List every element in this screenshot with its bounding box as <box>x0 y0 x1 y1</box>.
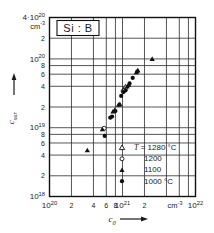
chart-title: Si : B <box>63 22 92 34</box>
x-tick-label: 6 <box>104 202 108 209</box>
y-tick-label: 8 <box>41 131 45 138</box>
data-point <box>103 134 107 138</box>
data-point <box>135 69 139 73</box>
legend-marker <box>119 167 124 172</box>
legend-label: 1100 <box>144 165 162 174</box>
y-axis-unit: cm-3 <box>30 20 45 30</box>
legend-label: T = 1280 °C <box>134 143 177 152</box>
legend-marker <box>120 179 124 183</box>
y-tick-label: 6 <box>41 71 45 78</box>
y-tick-label: 6 <box>41 140 45 147</box>
data-point <box>110 115 114 119</box>
y-tick-label: 2 <box>41 172 45 179</box>
data-point <box>123 88 127 92</box>
x-axis-arrow-head <box>141 217 148 222</box>
x-tick-label: 2 <box>70 202 74 209</box>
data-point <box>127 81 131 85</box>
y-axis-arrow-head <box>12 73 17 80</box>
x-axis-title: c0 <box>108 214 116 226</box>
x-tick-label: 1021 <box>115 200 130 210</box>
data-point <box>85 148 90 153</box>
legend-marker <box>120 157 124 161</box>
legend-label: 1000 °C <box>144 177 173 186</box>
data-point <box>113 109 117 113</box>
data-point <box>131 76 135 80</box>
x-tick-label: 1020 <box>42 200 57 210</box>
x-tick-label: 2 <box>143 202 147 209</box>
legend-label: 1200 <box>144 154 162 163</box>
data-point <box>119 94 123 98</box>
y-tick-label: 1018 <box>30 191 45 201</box>
y-tick-label: 4 <box>41 83 45 90</box>
x-tick-label: 4 <box>91 202 95 209</box>
x-tick-label: 1022 <box>188 200 203 210</box>
legend-marker <box>119 145 124 150</box>
chart-svg: 4·1020210208642101986421018cm-3102024681… <box>0 0 214 233</box>
y-tick-label: 2 <box>41 104 45 111</box>
y-tick-label: 8 <box>41 62 45 69</box>
y-tick-label: 4 <box>41 152 45 159</box>
chart-figure: 4·1020210208642101986421018cm-3102024681… <box>0 0 214 233</box>
y-tick-label: 2 <box>41 35 45 42</box>
y-axis-title: csur <box>6 111 18 124</box>
x-axis-unit: cm-3 <box>168 200 183 210</box>
